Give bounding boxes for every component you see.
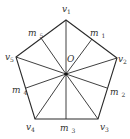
spoke-line <box>41 38 66 74</box>
midpoint-label-5: m 5 <box>28 28 43 39</box>
spoke-line <box>26 74 66 88</box>
vertex-label-3: v3 <box>100 122 109 133</box>
vertex-label-2: v2 <box>118 54 127 65</box>
center-point <box>64 72 67 75</box>
spoke-line <box>35 74 66 119</box>
pentagon-diagram: v1v2v3v4v5m 1m 2m 3m 4m 5O <box>0 0 130 139</box>
spoke-line <box>66 74 107 88</box>
vertex-label-4: v4 <box>26 122 35 133</box>
spoke-line <box>66 74 98 119</box>
vertex-label-1: v1 <box>62 4 71 15</box>
spoke-line <box>16 57 66 74</box>
midpoint-label-1: m 1 <box>90 28 105 39</box>
center-label: O <box>67 54 75 64</box>
midpoint-label-2: m 2 <box>110 87 125 98</box>
vertex-label-5: v5 <box>5 52 14 63</box>
midpoint-label-3: m 3 <box>60 123 75 134</box>
